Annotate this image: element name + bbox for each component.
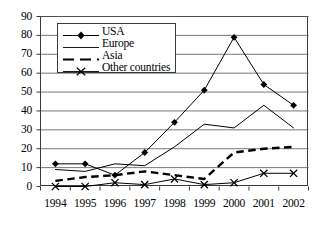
legend-item-other-countries: Other countries	[58, 62, 175, 74]
legend-swatch-x-line	[62, 63, 100, 74]
y-axis-ticks	[37, 17, 41, 187]
y-axis-tick-label: 40	[4, 105, 32, 117]
y-axis-tick-label: 10	[4, 162, 32, 174]
y-axis-tick-label: 70	[4, 48, 32, 60]
legend-label-europe: Europe	[102, 38, 134, 50]
y-axis-tick-label: 80	[4, 29, 32, 41]
legend-swatch-dashed-line	[62, 51, 100, 62]
y-axis-tick-label: 60	[4, 67, 32, 79]
legend-label-asia: Asia	[102, 50, 122, 62]
y-axis-tick-label: 90	[4, 11, 32, 23]
legend-swatch-diamond-line	[62, 27, 100, 38]
y-axis-tick-label: 0	[4, 181, 32, 193]
y-axis-tick-label: 30	[4, 124, 32, 136]
legend-label-other-countries: Other countries	[102, 62, 170, 74]
line-chart: 0102030405060708090 19941995199619971998…	[0, 0, 332, 232]
legend-item-europe: Europe	[58, 38, 175, 50]
legend-label-usa: USA	[102, 26, 124, 38]
y-axis-tick-label: 50	[4, 86, 32, 98]
x-axis-tick-label: 2002	[274, 198, 314, 210]
x-axis-ticks	[41, 187, 309, 191]
legend-swatch-plain-line	[62, 39, 100, 50]
legend: USA Europe Asia	[57, 23, 176, 73]
legend-item-usa: USA	[58, 26, 175, 38]
legend-item-asia: Asia	[58, 50, 175, 62]
y-axis-tick-label: 20	[4, 143, 32, 155]
